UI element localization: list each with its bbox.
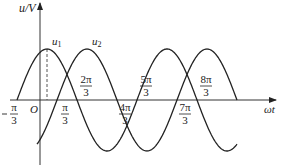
tick-denominator: 3: [11, 114, 17, 126]
tick-label: 2π3: [80, 73, 92, 98]
tick-numerator: 7π: [179, 101, 191, 113]
tick-denominator: 3: [62, 114, 68, 126]
tick-numerator: 8π: [200, 73, 212, 85]
x-axis-label: ωt: [264, 103, 276, 115]
series-u2-label: u2: [92, 35, 102, 49]
tick-numerator: π: [11, 101, 17, 113]
tick-denominator: 3: [182, 114, 188, 126]
tick-denominator: 3: [122, 114, 128, 126]
y-axis-label: u/V: [19, 1, 37, 15]
tick-denominator: 3: [203, 86, 209, 98]
tick-label: 7π3: [179, 101, 191, 126]
tick-label: 4π3: [119, 101, 131, 126]
tick-label: 8π3: [200, 73, 212, 98]
tick-numerator: π: [62, 101, 68, 113]
tick-numerator: 2π: [80, 73, 92, 85]
tick-label: π3: [2, 101, 18, 126]
tick-label: π3: [61, 101, 69, 126]
tick-numerator: 5π: [140, 73, 152, 85]
chart: u1u2 π3π32π34π35π37π38π3 u/V ωt O: [0, 0, 282, 168]
tick-denominator: 3: [143, 86, 149, 98]
tick-denominator: 3: [83, 86, 89, 98]
tick-label: 5π3: [140, 73, 152, 98]
series-u1-label: u1: [52, 35, 62, 49]
origin-label: O: [30, 103, 38, 115]
tick-numerator: 4π: [119, 101, 131, 113]
